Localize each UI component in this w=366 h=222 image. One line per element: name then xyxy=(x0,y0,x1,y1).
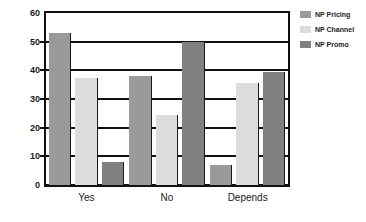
y-tick-label-60: 60 xyxy=(6,9,40,18)
bar xyxy=(75,78,98,186)
x-tick-label-yes: Yes xyxy=(46,192,127,204)
bar-chart: 0102030405060 YesNoDepends NP PricingNP … xyxy=(0,0,366,222)
legend-item: NP Pricing xyxy=(300,9,364,20)
legend-label: NP Promo xyxy=(315,41,349,49)
legend-swatch-icon xyxy=(300,41,311,48)
chart-legend: NP PricingNP ChannelNP Promo xyxy=(300,9,364,54)
bar xyxy=(236,83,259,185)
legend-label: NP Pricing xyxy=(315,11,350,19)
y-tick-label-30: 30 xyxy=(6,95,40,104)
legend-label: NP Channel xyxy=(315,26,354,34)
y-tick-label-0: 0 xyxy=(6,181,40,190)
bar xyxy=(102,162,125,185)
y-tick-label-50: 50 xyxy=(6,38,40,47)
bar xyxy=(49,33,72,185)
legend-item: NP Channel xyxy=(300,24,364,35)
x-tick-label-depends: Depends xyxy=(207,192,288,204)
legend-item: NP Promo xyxy=(300,39,364,50)
legend-swatch-icon xyxy=(300,26,311,33)
y-tick-label-40: 40 xyxy=(6,66,40,75)
bar xyxy=(182,42,205,185)
bars-layer xyxy=(46,13,288,185)
legend-swatch-icon xyxy=(300,11,311,18)
bar-group xyxy=(46,13,127,185)
x-axis-labels: YesNoDepends xyxy=(46,192,288,208)
y-tick-label-10: 10 xyxy=(6,152,40,161)
bar xyxy=(156,115,179,185)
y-axis: 0102030405060 xyxy=(0,13,40,185)
bar-group xyxy=(207,13,288,185)
bar xyxy=(210,165,233,185)
bar-group xyxy=(127,13,208,185)
y-tick-label-20: 20 xyxy=(6,124,40,133)
bar xyxy=(263,72,286,185)
x-tick-label-no: No xyxy=(127,192,208,204)
bar xyxy=(129,76,152,185)
